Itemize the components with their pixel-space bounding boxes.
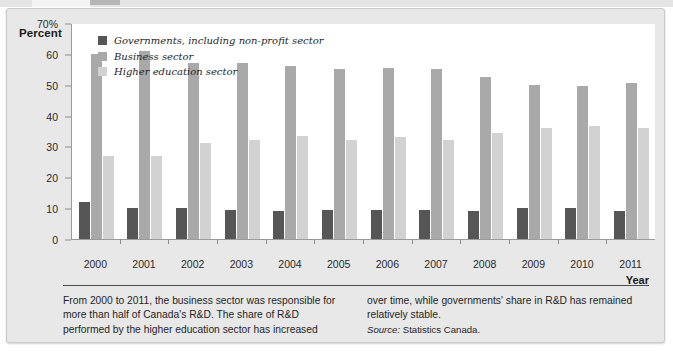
x-axis-tick-mark xyxy=(168,239,169,244)
bar-group xyxy=(413,69,462,239)
y-axis-tick-label: 40 xyxy=(46,111,63,123)
x-axis-tick-label: 2005 xyxy=(327,258,350,270)
figure-caption: From 2000 to 2011, the business sector w… xyxy=(63,294,649,337)
x-axis-tick-label: 2007 xyxy=(424,258,447,270)
x-axis-tick-mark xyxy=(314,239,315,244)
x-axis-tick-label: 2008 xyxy=(473,258,496,270)
bar[interactable] xyxy=(176,208,187,239)
x-axis-tick-label: 2006 xyxy=(376,258,399,270)
bar-group xyxy=(72,54,121,239)
x-axis-tick-label: 2002 xyxy=(181,258,204,270)
caption-column-left: From 2000 to 2011, the business sector w… xyxy=(63,294,345,337)
caption-left-text: From 2000 to 2011, the business sector w… xyxy=(63,294,345,337)
x-axis-tick-label: 2004 xyxy=(278,258,301,270)
bar[interactable] xyxy=(225,210,236,239)
figure-panel: Percent 70%6050403020100 Governments, in… xyxy=(6,8,665,343)
bar-group xyxy=(607,83,656,239)
legend-item-business[interactable]: Business sector xyxy=(98,50,323,63)
legend-item-higher_education[interactable]: Higher education sector xyxy=(98,65,323,78)
top-cut-dark xyxy=(90,0,120,5)
x-axis-tick-label: 2011 xyxy=(619,258,642,270)
bar[interactable] xyxy=(334,69,345,239)
x-axis-tick-mark xyxy=(558,239,559,244)
bar-group xyxy=(461,77,510,239)
bar[interactable] xyxy=(626,83,637,239)
bar[interactable] xyxy=(188,63,199,239)
x-axis-tick-mark xyxy=(412,239,413,244)
bar[interactable] xyxy=(431,69,442,239)
bar[interactable] xyxy=(638,128,649,239)
y-axis-tick-label: 70% xyxy=(37,18,63,30)
bar[interactable] xyxy=(371,210,382,239)
bar-group xyxy=(315,69,364,239)
bar-group xyxy=(267,66,316,239)
bar[interactable] xyxy=(346,140,357,239)
legend-item-label: Higher education sector xyxy=(114,66,237,77)
legend-swatch-icon xyxy=(98,36,107,45)
x-axis-tick-mark xyxy=(120,239,121,244)
bar[interactable] xyxy=(577,86,588,239)
x-axis-tick-label: 2003 xyxy=(230,258,253,270)
y-axis-tick-label: 30 xyxy=(46,141,63,153)
bar-group xyxy=(364,68,413,239)
legend-item-governments[interactable]: Governments, including non-profit sector xyxy=(98,34,323,47)
bar[interactable] xyxy=(395,137,406,239)
source-value: Statistics Canada. xyxy=(403,324,480,335)
bar[interactable] xyxy=(614,211,625,239)
x-axis-tick-mark xyxy=(606,239,607,244)
bar[interactable] xyxy=(517,208,528,239)
bar[interactable] xyxy=(492,133,503,239)
bar-group xyxy=(218,63,267,239)
bar[interactable] xyxy=(273,211,284,239)
x-axis-tick-mark xyxy=(460,239,461,244)
y-axis-tick-label: 10 xyxy=(46,203,63,215)
x-axis-tick-mark xyxy=(363,239,364,244)
bar[interactable] xyxy=(529,85,540,239)
x-axis-tick-label: 2009 xyxy=(522,258,545,270)
bar[interactable] xyxy=(443,140,454,239)
caption-right-text: over time, while governments' share in R… xyxy=(367,294,649,323)
x-axis-tick-label: 2010 xyxy=(570,258,593,270)
y-axis-tick-label: 20 xyxy=(46,172,63,184)
bar-group xyxy=(510,85,559,239)
bar[interactable] xyxy=(541,128,552,239)
y-axis-tick-label: 0 xyxy=(52,234,63,246)
bar[interactable] xyxy=(127,208,138,239)
legend-swatch-icon xyxy=(98,52,107,61)
bar[interactable] xyxy=(79,202,90,239)
caption-divider xyxy=(63,285,649,286)
bar-group xyxy=(559,86,608,239)
source-label: Source: xyxy=(367,324,400,335)
bar[interactable] xyxy=(200,143,211,239)
legend-item-label: Governments, including non-profit sector xyxy=(114,35,323,46)
bar[interactable] xyxy=(249,140,260,239)
bar[interactable] xyxy=(297,136,308,239)
x-axis-tick-mark xyxy=(217,239,218,244)
caption-source: Source: Statistics Canada. xyxy=(367,323,649,337)
chart-plot-area: Governments, including non-profit sector… xyxy=(71,24,655,240)
bar[interactable] xyxy=(91,54,102,239)
bar-group xyxy=(169,63,218,239)
y-axis-tick-label: 50 xyxy=(46,80,63,92)
chart-plot-wrapper: 70%6050403020100 Governments, including … xyxy=(63,24,655,240)
bar[interactable] xyxy=(565,208,576,239)
bar[interactable] xyxy=(468,211,479,239)
caption-column-right: over time, while governments' share in R… xyxy=(367,294,649,337)
x-axis-tick-mark xyxy=(266,239,267,244)
bar[interactable] xyxy=(151,156,162,239)
top-cut-white xyxy=(32,0,90,7)
bar[interactable] xyxy=(589,126,600,239)
bar[interactable] xyxy=(237,63,248,239)
bar[interactable] xyxy=(103,156,114,239)
bar[interactable] xyxy=(285,66,296,239)
bar[interactable] xyxy=(383,68,394,239)
legend-swatch-icon xyxy=(98,67,107,76)
x-axis-tick-label: 2000 xyxy=(84,258,107,270)
bar[interactable] xyxy=(419,210,430,239)
x-axis-tick-label: 2001 xyxy=(132,258,155,270)
y-axis-tick-label: 60 xyxy=(46,49,63,61)
top-cut-strip xyxy=(0,0,673,7)
bar[interactable] xyxy=(322,210,333,239)
bar[interactable] xyxy=(480,77,491,239)
chart-legend: Governments, including non-profit sector… xyxy=(98,34,323,81)
